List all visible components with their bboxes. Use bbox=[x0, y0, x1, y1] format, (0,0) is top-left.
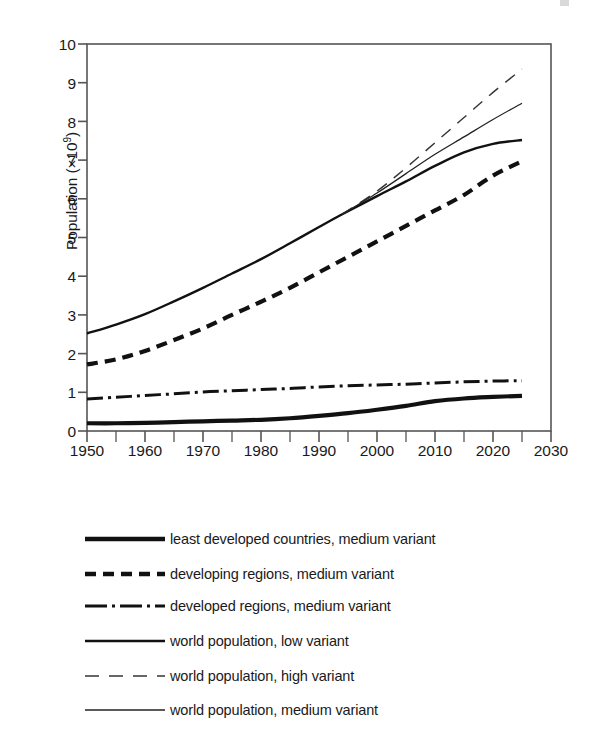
series-line bbox=[87, 396, 522, 424]
dashed-thin-line-swatch bbox=[84, 669, 166, 683]
x-axis-ticks bbox=[87, 431, 551, 442]
legend-item-world-high[interactable]: world population, high variant bbox=[84, 660, 354, 692]
legend-item-world-medium[interactable]: world population, medium variant bbox=[84, 694, 378, 726]
legend-label: world population, medium variant bbox=[166, 702, 378, 718]
legend-label: world population, low variant bbox=[166, 633, 349, 649]
series-line bbox=[87, 140, 522, 334]
legend-label: developing regions, medium variant bbox=[166, 566, 394, 582]
y-axis-ticks bbox=[78, 44, 87, 431]
dash-dot-line-swatch bbox=[84, 599, 166, 613]
legend-item-developed-regions[interactable]: developed regions, medium variant bbox=[84, 590, 391, 622]
legend-label: least developed countries, medium varian… bbox=[166, 531, 435, 547]
population-projection-figure: Population (×109) 10 9 8 7 6 5 4 3 2 1 0… bbox=[0, 0, 596, 750]
legend-item-least-developed[interactable]: least developed countries, medium varian… bbox=[84, 523, 435, 555]
series-lines bbox=[87, 69, 522, 423]
legend-label: world population, high variant bbox=[166, 668, 354, 684]
series-line bbox=[87, 161, 522, 364]
series-line bbox=[87, 381, 522, 399]
series-line bbox=[342, 103, 522, 214]
legend-label: developed regions, medium variant bbox=[166, 598, 391, 614]
solid-medium-line-swatch bbox=[84, 634, 166, 648]
chart-plot-area bbox=[0, 0, 596, 470]
legend-item-world-low[interactable]: world population, low variant bbox=[84, 625, 349, 657]
solid-thin-line-swatch bbox=[84, 703, 166, 717]
legend-item-developing-regions[interactable]: developing regions, medium variant bbox=[84, 558, 394, 590]
solid-thick-line-swatch bbox=[84, 532, 166, 546]
series-line bbox=[342, 69, 522, 214]
chart-legend: least developed countries, medium varian… bbox=[0, 520, 596, 730]
dashed-thick-line-swatch bbox=[84, 567, 166, 581]
